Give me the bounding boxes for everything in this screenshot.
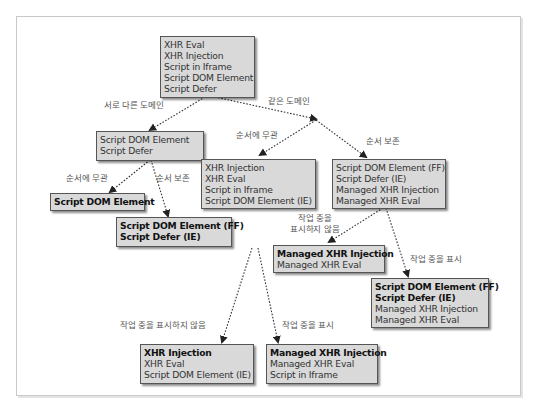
- label-no-busy-right: 작업 중을 표시하지 않음: [290, 213, 339, 235]
- box-preserved-busy: Script DOM Element (FF) Script Defer (IE…: [371, 278, 489, 328]
- label-no-busy-right-line2: 표시하지 않음: [290, 224, 339, 235]
- root-line: Script Defer: [164, 83, 251, 94]
- root-line: Script in Iframe: [164, 61, 251, 72]
- root-line: XHR Eval: [164, 39, 251, 50]
- box-irrelevant-no-busy: XHR Injection XHR Eval Script DOM Elemen…: [140, 344, 254, 384]
- label-busy-right: 작업 중을 표시: [410, 254, 462, 265]
- box-line: XHR Injection: [144, 347, 250, 358]
- box-line: Script DOM Element (IE): [205, 195, 312, 206]
- edge-same-to-order-preserved: [316, 120, 366, 157]
- box-line: Script Defer: [100, 145, 200, 156]
- label-no-busy-bottom: 작업 중을 표시하지 않음: [120, 320, 206, 331]
- root-line: Script DOM Element: [164, 72, 251, 83]
- box-line: Managed XHR Eval: [277, 259, 381, 270]
- edge-preserved-to-busy: [386, 208, 408, 276]
- label-order-preserved-diff: 순서 보존: [156, 173, 190, 184]
- edge-diff-to-preserved: [151, 160, 168, 216]
- box-line: Script in Iframe: [205, 184, 312, 195]
- box-line: Script DOM Element (FF): [336, 162, 442, 173]
- box-preserved-no-busy: Managed XHR Injection Managed XHR Eval: [273, 245, 385, 273]
- box-line: Managed XHR Injection: [375, 303, 485, 314]
- box-same-order-irrelevant: XHR Injection XHR Eval Script in Iframe …: [201, 159, 316, 209]
- box-line: Script DOM Element: [100, 134, 200, 145]
- label-different-domain: 서로 다른 도메인: [104, 100, 164, 111]
- label-order-preserved-same: 순서 보존: [366, 136, 400, 147]
- box-line: XHR Eval: [205, 173, 312, 184]
- box-line: Managed XHR Eval: [375, 314, 485, 325]
- label-order-irrelevant-diff: 순서에 무관: [66, 173, 108, 184]
- box-line: Managed XHR Eval: [270, 358, 374, 369]
- box-line: Script Defer (IE): [336, 173, 442, 184]
- edge-diff-to-irrelevant: [110, 160, 150, 192]
- box-line: Script Defer (IE): [375, 292, 485, 303]
- box-line: XHR Eval: [144, 358, 250, 369]
- label-order-irrelevant-same: 순서에 무관: [236, 130, 278, 141]
- box-diff-order-preserved: Script DOM Element (FF) Script Defer (IE…: [116, 217, 232, 247]
- box-line: Managed XHR Eval: [336, 195, 442, 206]
- box-diff-order-irrelevant: Script DOM Element: [50, 193, 145, 211]
- box-same-order-preserved: Script DOM Element (FF) Script Defer (IE…: [332, 159, 446, 209]
- root-box: XHR Eval XHR Injection Script in Iframe …: [160, 36, 255, 98]
- box-line: Script DOM Element: [54, 196, 141, 207]
- box-line: Managed XHR Injection: [336, 184, 442, 195]
- box-line: Script DOM Element (IE): [144, 369, 250, 380]
- box-irrelevant-busy: Managed XHR Injection Managed XHR Eval S…: [266, 344, 378, 384]
- box-line: Managed XHR Injection: [277, 248, 381, 259]
- label-busy-bottom: 작업 중을 표시: [282, 320, 334, 331]
- box-different-domain: Script DOM Element Script Defer: [96, 131, 204, 161]
- label-same-domain: 같은 도메인: [268, 96, 310, 107]
- label-no-busy-right-line1: 작업 중을: [290, 213, 339, 224]
- box-line: Managed XHR Injection: [270, 347, 374, 358]
- edge-irrelevant-to-no-busy: [222, 248, 252, 342]
- box-line: Script Defer (IE): [120, 231, 228, 242]
- box-line: XHR Injection: [205, 162, 312, 173]
- box-line: Script DOM Element (FF): [120, 220, 228, 231]
- box-line: Script DOM Element (FF): [375, 281, 485, 292]
- root-line: XHR Injection: [164, 50, 251, 61]
- box-line: Script in Iframe: [270, 369, 374, 380]
